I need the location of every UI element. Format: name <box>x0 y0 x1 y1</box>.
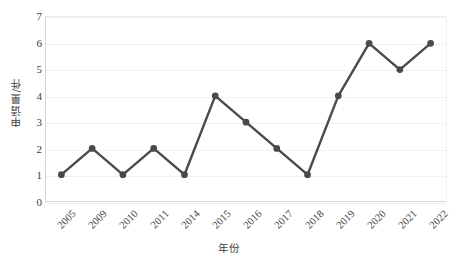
x-axis-title: 年份 <box>0 240 457 255</box>
data-point-2005 <box>58 171 65 178</box>
x-tick-label-2019: 2019 <box>334 208 357 231</box>
y-tick-label-3: 3 <box>37 117 43 128</box>
data-point-2016 <box>243 119 250 126</box>
y-tick-label-5: 5 <box>37 64 43 75</box>
series-markers <box>58 40 434 178</box>
x-tick-label-2022: 2022 <box>427 208 450 231</box>
plot-area <box>45 16 447 202</box>
x-tick-label-2021: 2021 <box>396 208 419 231</box>
line-chart: 申请量/件 01234567 2005200920102011201420152… <box>0 0 457 266</box>
x-tick-label-2017: 2017 <box>272 208 295 231</box>
data-point-2011 <box>150 145 157 152</box>
x-tick-label-2010: 2010 <box>117 208 140 231</box>
data-point-2010 <box>120 171 127 178</box>
y-tick-label-4: 4 <box>37 90 43 101</box>
y-tick-label-6: 6 <box>37 37 43 48</box>
data-point-2018 <box>304 171 311 178</box>
data-point-2019 <box>335 92 342 99</box>
x-tick-label-2014: 2014 <box>179 208 202 231</box>
y-tick-label-1: 1 <box>37 170 43 181</box>
series-polyline <box>61 43 430 174</box>
y-axis-tick-labels: 01234567 <box>24 0 42 206</box>
y-axis-title-text: 申请量/件 <box>8 77 23 127</box>
data-point-2020 <box>366 40 373 47</box>
x-tick-label-2009: 2009 <box>87 208 110 231</box>
y-tick-label-7: 7 <box>37 11 43 22</box>
x-tick-label-2018: 2018 <box>303 208 326 231</box>
series-line-申请量 <box>46 17 446 201</box>
data-point-2009 <box>89 145 96 152</box>
x-tick-label-2020: 2020 <box>365 208 388 231</box>
x-tick-label-2016: 2016 <box>241 208 264 231</box>
y-tick-label-0: 0 <box>37 197 43 208</box>
x-tick-label-2015: 2015 <box>210 208 233 231</box>
x-axis-tick-labels: 2005200920102011201420152016201720182019… <box>45 204 447 244</box>
y-tick-label-2: 2 <box>37 143 43 154</box>
data-point-2017 <box>273 145 280 152</box>
data-point-2022 <box>427 40 434 47</box>
data-point-2014 <box>181 171 188 178</box>
data-point-2015 <box>212 92 219 99</box>
x-tick-label-2011: 2011 <box>149 208 171 230</box>
x-tick-label-2005: 2005 <box>56 208 79 231</box>
data-point-2021 <box>396 66 403 73</box>
